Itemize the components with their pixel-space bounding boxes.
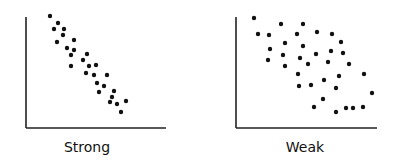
data-point (279, 22, 283, 26)
data-point (61, 33, 65, 37)
data-point (347, 62, 351, 66)
data-point (361, 105, 365, 109)
data-point (339, 40, 343, 44)
data-point (330, 32, 334, 36)
data-point (115, 102, 119, 106)
data-point (322, 78, 326, 82)
data-point (124, 99, 128, 103)
strong-points (48, 14, 128, 114)
data-point (315, 30, 319, 34)
data-point (85, 52, 89, 56)
data-point (69, 53, 73, 57)
data-point (314, 52, 318, 56)
data-point (95, 81, 99, 85)
data-point (102, 84, 106, 88)
data-point (321, 97, 325, 101)
data-point (62, 27, 66, 31)
data-point (112, 89, 116, 93)
data-point (306, 62, 310, 66)
data-point (351, 106, 355, 110)
data-point (362, 72, 366, 76)
weak-points (252, 16, 374, 114)
data-point (84, 71, 88, 75)
data-point (55, 40, 59, 44)
data-point (334, 110, 338, 114)
data-point (370, 91, 374, 95)
data-point (337, 74, 341, 78)
data-point (297, 84, 301, 88)
data-point (295, 32, 299, 36)
data-point (256, 32, 260, 36)
strong-chart: Strong (26, 14, 166, 155)
data-point (298, 56, 302, 60)
data-point (105, 73, 109, 77)
data-point (56, 21, 60, 25)
data-point (301, 22, 305, 26)
data-point (94, 63, 98, 67)
data-point (69, 64, 73, 68)
data-point (65, 46, 69, 50)
data-point (296, 72, 300, 76)
data-point (252, 16, 256, 20)
strong-label: Strong (64, 139, 110, 155)
data-point (72, 48, 76, 52)
data-point (110, 95, 114, 99)
data-point (309, 83, 313, 87)
data-point (81, 58, 85, 62)
data-point (97, 90, 101, 94)
data-point (48, 14, 52, 18)
data-point (87, 64, 91, 68)
data-point (281, 53, 285, 57)
data-point (326, 60, 330, 64)
data-point (267, 33, 271, 37)
weak-label: Weak (286, 139, 325, 155)
data-point (108, 100, 112, 104)
data-point (283, 41, 287, 45)
data-point (344, 106, 348, 110)
data-point (266, 58, 270, 62)
weak-chart: Weak (236, 16, 377, 155)
data-point (334, 86, 338, 90)
data-point (283, 64, 287, 68)
data-point (329, 49, 333, 53)
data-point (312, 105, 316, 109)
scatter-comparison: Strong Weak (0, 0, 400, 163)
data-point (301, 44, 305, 48)
data-point (72, 38, 76, 42)
data-point (268, 47, 272, 51)
data-point (92, 73, 96, 77)
data-point (52, 27, 56, 31)
data-point (341, 51, 345, 55)
data-point (119, 110, 123, 114)
